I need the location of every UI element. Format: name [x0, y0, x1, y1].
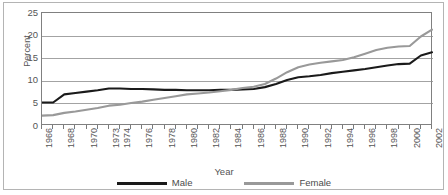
x-tick-label-2000: 2000	[413, 128, 422, 162]
x-tick-label-1970: 1970	[90, 128, 99, 162]
chart-legend: Male Female	[0, 176, 448, 190]
x-tick-label-1996: 1996	[368, 128, 377, 162]
x-tick-label-1988: 1988	[279, 128, 288, 162]
x-tick-label-1986: 1986	[257, 128, 266, 162]
x-tick-mark	[208, 125, 209, 129]
y-tick-15: 15	[12, 53, 38, 62]
x-tick-label-1966: 1966	[45, 128, 54, 162]
legend-item-female: Female	[244, 178, 331, 188]
x-tick-mark	[141, 125, 142, 129]
y-tick-5: 5	[12, 98, 38, 107]
y-axis-tick-labels: 0510152025	[9, 12, 38, 125]
legend-swatch-male	[117, 182, 167, 185]
legend-swatch-female	[244, 182, 294, 185]
x-tick-label-1976: 1976	[145, 128, 154, 162]
x-tick-label-1978: 1978	[168, 128, 177, 162]
data-series-layer	[42, 13, 433, 126]
x-tick-mark	[63, 125, 64, 129]
x-axis-tick-labels: 1966196819701973197419761978198019821984…	[41, 130, 432, 164]
legend-label-male: Male	[172, 178, 193, 188]
x-tick-mark	[253, 125, 254, 129]
x-tick-mark	[275, 125, 276, 129]
y-tick-20: 20	[12, 30, 38, 39]
x-tick-label-2002: 2002	[435, 128, 444, 162]
x-tick-mark	[342, 125, 343, 129]
x-tick-label-1994: 1994	[346, 128, 355, 162]
x-tick-label-1998: 1998	[390, 128, 399, 162]
legend-item-male: Male	[117, 178, 193, 188]
chart-figure: Percent 0510152025 196619681970197319741…	[0, 0, 448, 195]
plot-area	[41, 12, 432, 125]
x-tick-mark	[364, 125, 365, 129]
x-tick-label-1973: 1973	[112, 128, 121, 162]
x-tick-mark	[164, 125, 165, 129]
x-tick-mark	[108, 125, 109, 129]
x-tick-label-1974: 1974	[123, 128, 132, 162]
x-tick-label-1980: 1980	[190, 128, 199, 162]
y-tick-0: 0	[12, 121, 38, 130]
x-tick-mark	[186, 125, 187, 129]
x-tick-mark	[320, 125, 321, 129]
x-tick-mark	[41, 125, 42, 129]
x-tick-mark	[409, 125, 410, 129]
x-tick-mark	[230, 125, 231, 129]
x-tick-label-1968: 1968	[67, 128, 76, 162]
x-tick-label-1982: 1982	[212, 128, 221, 162]
x-tick-mark	[86, 125, 87, 129]
x-tick-mark	[297, 125, 298, 129]
x-tick-label-1992: 1992	[324, 128, 333, 162]
x-tick-mark	[386, 125, 387, 129]
x-tick-label-1990: 1990	[301, 128, 310, 162]
y-tick-10: 10	[12, 75, 38, 84]
y-tick-25: 25	[12, 8, 38, 17]
x-tick-label-1984: 1984	[234, 128, 243, 162]
legend-label-female: Female	[299, 178, 331, 188]
x-tick-mark	[431, 125, 432, 129]
